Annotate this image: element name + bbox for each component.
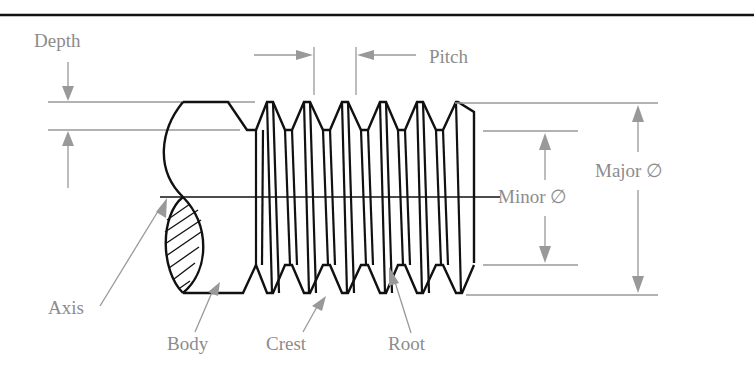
minor-diameter-label: Minor ∅ (498, 186, 567, 207)
pitch-label: Pitch (429, 46, 469, 67)
arrow-down-icon (62, 86, 74, 101)
arrow-down-icon (539, 246, 551, 263)
depth-label: Depth (34, 30, 81, 51)
root-label: Root (388, 333, 426, 354)
arrow-icon (389, 267, 399, 286)
axis-leader (100, 198, 167, 306)
arrow-up-icon (632, 105, 644, 122)
thread-diagram: Depth Pitch (0, 0, 754, 379)
body-label: Body (167, 333, 209, 354)
arrow-right-icon (296, 50, 313, 60)
arrow-up-icon (539, 133, 551, 150)
arrow-up-icon (62, 131, 74, 146)
arrow-icon (156, 198, 167, 218)
pitch-dimension (254, 47, 416, 95)
depth-dimension (48, 62, 255, 188)
major-diameter-label: Major ∅ (595, 160, 663, 181)
body-leader (195, 282, 220, 332)
crest-leader (303, 296, 326, 332)
arrow-down-icon (632, 276, 644, 293)
crest-label: Crest (266, 333, 307, 354)
arrow-left-icon (357, 50, 374, 60)
arrow-icon (312, 296, 326, 311)
axis-label: Axis (48, 297, 84, 318)
root-leader (389, 267, 411, 333)
